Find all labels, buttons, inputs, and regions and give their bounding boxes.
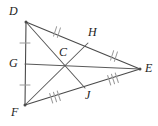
tick-mark xyxy=(57,91,60,101)
tick-marks-JE xyxy=(108,73,119,85)
vertex-label-F: F xyxy=(11,106,18,118)
vertex-dot-E xyxy=(139,68,142,71)
triangle-sides xyxy=(25,22,140,105)
geometry-figure: D F E G H J C xyxy=(0,0,158,126)
tick-marks-FJ xyxy=(50,91,61,103)
vertex-label-D: D xyxy=(9,5,18,17)
vertex-label-E: E xyxy=(145,62,152,74)
tick-mark xyxy=(111,51,114,61)
tick-mark xyxy=(53,92,56,102)
vertex-dot-F xyxy=(24,104,27,107)
median-lines xyxy=(25,22,140,105)
centroid-label-C: C xyxy=(59,46,67,58)
tick-mark xyxy=(50,93,53,103)
tick-mark xyxy=(108,75,111,85)
midpoint-label-J: J xyxy=(85,89,90,101)
vertex-dot-D xyxy=(25,21,28,24)
median-GE xyxy=(25,64,140,69)
side-DE xyxy=(26,22,140,69)
midpoint-label-H: H xyxy=(88,26,97,38)
geometry-canvas xyxy=(0,0,158,126)
tick-mark xyxy=(115,73,118,83)
side-FE xyxy=(25,69,140,105)
midpoint-label-G: G xyxy=(9,57,18,69)
vertex-dots xyxy=(24,21,142,107)
tick-mark xyxy=(111,74,114,84)
